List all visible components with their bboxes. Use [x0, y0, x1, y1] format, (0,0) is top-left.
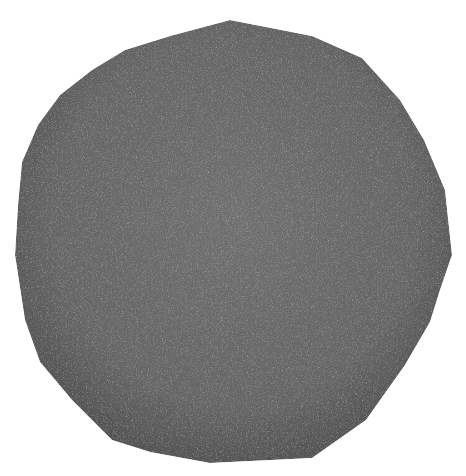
polygon-body [15, 20, 452, 463]
image-canvas [0, 0, 466, 476]
gray-polygon-shape [0, 0, 466, 476]
